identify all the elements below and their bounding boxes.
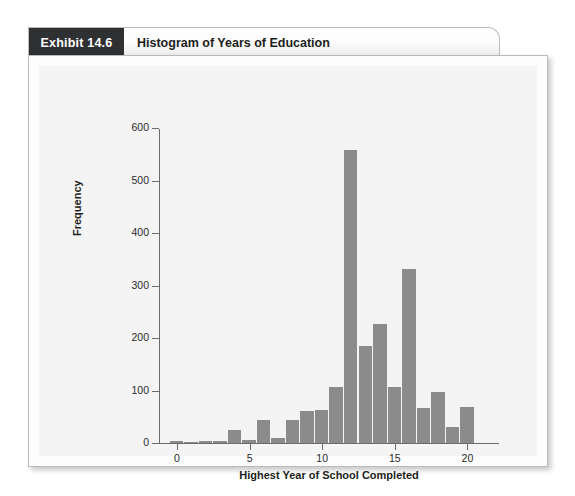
x-tick-label: 5: [235, 452, 265, 464]
y-tick-mark: [152, 443, 159, 444]
y-tick-mark: [152, 128, 159, 129]
y-tick-label: 300: [117, 279, 149, 291]
histogram-bar: [286, 420, 301, 443]
x-tick-mark: [395, 444, 396, 450]
histogram-bar: [257, 420, 272, 443]
histogram-bar: [359, 346, 374, 443]
y-tick-mark: [152, 233, 159, 234]
histogram-bar: [242, 440, 257, 443]
y-tick-mark: [152, 338, 159, 339]
x-axis-line: [159, 443, 499, 444]
y-tick-label: 100: [117, 384, 149, 396]
histogram-bar: [344, 150, 359, 443]
histogram-bar: [184, 442, 199, 444]
histogram-bar: [213, 441, 228, 443]
histogram-bar: [315, 410, 330, 443]
exhibit-body-panel: 0100200300400500600 05101520 Frequency H…: [28, 55, 548, 467]
x-tick-label: 0: [162, 452, 192, 464]
y-tick-mark: [152, 391, 159, 392]
exhibit-figure-card: Exhibit 14.6 Histogram of Years of Educa…: [28, 27, 548, 467]
histogram-bar: [388, 387, 403, 443]
x-tick-label: 20: [452, 452, 482, 464]
histogram-bar: [417, 408, 432, 443]
histogram-bar: [170, 441, 185, 443]
x-tick-mark: [322, 444, 323, 450]
chart-canvas: 0100200300400500600 05101520 Frequency H…: [39, 66, 537, 456]
histogram-bar: [460, 407, 475, 443]
y-tick-label: 400: [117, 226, 149, 238]
histogram-bar: [329, 387, 344, 443]
y-tick-mark: [152, 181, 159, 182]
histogram-bar: [228, 430, 243, 443]
histogram-bar: [431, 392, 446, 443]
y-tick-mark: [152, 286, 159, 287]
histogram-bar: [402, 269, 417, 443]
y-axis-line: [159, 129, 160, 444]
y-tick-label: 200: [117, 331, 149, 343]
histogram-bar: [373, 324, 388, 443]
x-tick-label: 10: [307, 452, 337, 464]
exhibit-number-tag: Exhibit 14.6: [29, 28, 124, 57]
histogram-bar: [199, 441, 214, 443]
x-tick-mark: [250, 444, 251, 450]
x-tick-label: 15: [380, 452, 410, 464]
histogram-bar: [300, 411, 315, 443]
chart-plot-region: 0100200300400500600 05101520 Frequency H…: [39, 66, 537, 456]
histogram-bar: [271, 438, 286, 443]
histogram-bar: [446, 427, 461, 443]
x-tick-mark: [177, 444, 178, 450]
x-axis-title: Highest Year of School Completed: [159, 469, 499, 481]
x-tick-mark: [467, 444, 468, 450]
y-tick-label: 600: [117, 121, 149, 133]
y-tick-label: 500: [117, 174, 149, 186]
y-tick-label: 0: [117, 436, 149, 448]
y-axis-title: Frequency: [71, 180, 83, 236]
exhibit-header-strip: Exhibit 14.6 Histogram of Years of Educa…: [28, 27, 500, 56]
exhibit-title: Histogram of Years of Education: [137, 28, 330, 57]
